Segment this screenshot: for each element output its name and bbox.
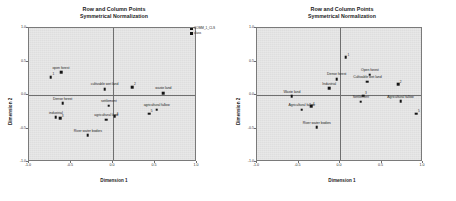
data-point bbox=[105, 118, 108, 121]
y-axis-tick-label: -1.0 bbox=[244, 159, 254, 163]
chart-panel-left: Row and Column Points Symmetrical Normal… bbox=[0, 0, 228, 201]
y-axis-tick-label: 0.0 bbox=[244, 92, 254, 96]
x-axis-tick-label: 1.0 bbox=[194, 163, 199, 167]
chart-subtitle-left: Symmetrical Normalization bbox=[0, 13, 228, 20]
y-axis-tick-mark bbox=[26, 161, 28, 162]
y-axis-tick-mark bbox=[254, 61, 256, 62]
data-point-label: Industrial bbox=[322, 82, 336, 86]
x-axis-tick-mark bbox=[70, 161, 71, 163]
chart-title-block-right: Row and Column Points Symmetrical Normal… bbox=[228, 6, 456, 20]
data-point-label: waste land bbox=[155, 86, 171, 90]
x-axis-tick-mark bbox=[339, 161, 340, 163]
y-axis-tick-label: 0.5 bbox=[244, 59, 254, 63]
y-axis-tick-label: 1.0 bbox=[244, 25, 254, 29]
y-axis-tick-mark bbox=[26, 27, 28, 28]
x-axis-tick-mark bbox=[422, 161, 423, 163]
plot-area-left: open forest1cultivable wet landwaste lan… bbox=[28, 27, 196, 161]
data-point bbox=[61, 102, 64, 105]
data-point-annotation: 3 bbox=[62, 114, 64, 118]
y-axis-title-right: Dimension 2 bbox=[236, 98, 241, 125]
data-point bbox=[366, 80, 369, 83]
data-point-label: Agricultural fallow bbox=[387, 95, 413, 99]
data-point-annotation: 2 bbox=[134, 82, 136, 86]
data-point-label: agricultural fallow bbox=[144, 103, 170, 107]
data-point-label: River water bodies bbox=[74, 129, 102, 133]
x-axis-tick-label: -1.0 bbox=[25, 163, 31, 167]
data-point bbox=[108, 104, 111, 107]
y-axis-tick-label: -0.5 bbox=[244, 126, 254, 130]
y-axis-tick-mark bbox=[26, 128, 28, 129]
x-axis-tick-label: 0.5 bbox=[152, 163, 157, 167]
data-point bbox=[103, 88, 106, 91]
x-axis-tick-mark bbox=[298, 161, 299, 163]
data-point bbox=[60, 71, 63, 74]
x-axis-tick-mark bbox=[256, 161, 257, 163]
y-axis-tick-label: 0.5 bbox=[16, 59, 26, 63]
legend-item-label: class bbox=[194, 32, 201, 36]
x-axis-tick-mark bbox=[381, 161, 382, 163]
data-point bbox=[328, 87, 331, 90]
x-axis-tick-mark bbox=[154, 161, 155, 163]
y-axis-tick-label: -0.5 bbox=[16, 126, 26, 130]
x-axis-tick-mark bbox=[112, 161, 113, 163]
vertical-zero-axis bbox=[340, 28, 341, 160]
x-axis-tick-label: -0.5 bbox=[67, 163, 73, 167]
legend-item[interactable]: class bbox=[190, 32, 228, 36]
chart-subtitle-right: Symmetrical Normalization bbox=[228, 13, 456, 20]
plot-texture-left bbox=[29, 28, 195, 160]
figure-canvas: Row and Column Points Symmetrical Normal… bbox=[0, 0, 456, 201]
data-point bbox=[335, 78, 338, 81]
data-point-annotation: 5 bbox=[418, 109, 420, 113]
y-axis-tick-label: -1.0 bbox=[16, 159, 26, 163]
x-axis-tick-label: 0.0 bbox=[337, 163, 342, 167]
chart-panel-right: Row and Column Points Symmetrical Normal… bbox=[228, 0, 456, 201]
data-point-label: industrial bbox=[49, 111, 63, 115]
data-point-annotation: 4 bbox=[116, 112, 118, 116]
y-axis-tick-label: 1.0 bbox=[16, 25, 26, 29]
data-point bbox=[399, 100, 402, 103]
chart-title-block-left: Row and Column Points Symmetrical Normal… bbox=[0, 6, 228, 20]
data-point-annotation: 4 bbox=[313, 102, 315, 106]
data-point bbox=[162, 92, 165, 95]
x-axis-title-left: Dimension 1 bbox=[0, 178, 228, 183]
y-axis-tick-mark bbox=[254, 128, 256, 129]
data-point-label: Dense forest bbox=[327, 72, 346, 76]
data-point-label: Settlement bbox=[353, 95, 369, 99]
data-point-label: Waste land bbox=[283, 90, 300, 94]
x-axis-tick-label: 0.0 bbox=[110, 163, 115, 167]
y-axis-tick-mark bbox=[26, 61, 28, 62]
vertical-zero-axis bbox=[113, 28, 114, 160]
legend-left: COMM_1_CLSclass bbox=[190, 27, 228, 37]
data-point bbox=[155, 108, 158, 111]
y-axis-tick-mark bbox=[254, 161, 256, 162]
data-point-annotation: 5 bbox=[151, 109, 153, 113]
x-axis-tick-label: 0.5 bbox=[378, 163, 383, 167]
plot-area-right: 1Open forestDense forestCultivable wet l… bbox=[256, 27, 422, 161]
data-point bbox=[87, 134, 90, 137]
data-point-label: River water bodies bbox=[303, 121, 331, 125]
data-point bbox=[301, 108, 304, 111]
legend-marker-icon bbox=[190, 28, 193, 31]
data-point-annotation: 1 bbox=[53, 72, 55, 76]
data-point-label: cultivable wet land bbox=[91, 82, 119, 86]
data-point-label: Cultivable wet land bbox=[353, 75, 381, 79]
data-point-label: Open forest bbox=[361, 68, 379, 72]
x-axis-tick-mark bbox=[196, 161, 197, 163]
data-point-label: Dense forest bbox=[53, 97, 72, 101]
data-point-label: settlement bbox=[101, 99, 117, 103]
data-point-label: open forest bbox=[52, 66, 69, 70]
x-axis-title-right: Dimension 1 bbox=[228, 178, 456, 183]
data-point-annotation: 1 bbox=[348, 53, 350, 57]
y-axis-tick-mark bbox=[26, 94, 28, 95]
data-point bbox=[359, 100, 362, 103]
chart-title-left: Row and Column Points bbox=[0, 6, 228, 13]
y-axis-tick-mark bbox=[254, 27, 256, 28]
legend-marker-icon bbox=[190, 32, 193, 35]
x-axis-tick-mark bbox=[28, 161, 29, 163]
data-point bbox=[55, 116, 58, 119]
data-point bbox=[291, 95, 294, 98]
chart-title-right: Row and Column Points bbox=[228, 6, 456, 13]
data-point-annotation: 2 bbox=[400, 80, 402, 84]
x-axis-tick-label: 1.0 bbox=[420, 163, 425, 167]
y-axis-title-left: Dimension 2 bbox=[8, 98, 13, 125]
